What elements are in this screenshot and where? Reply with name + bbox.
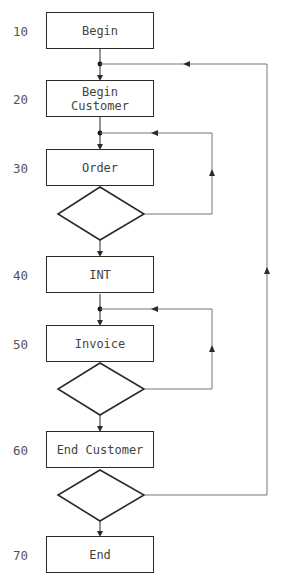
step-box-order: Order xyxy=(46,149,154,186)
step-label: Begin Customer xyxy=(65,85,135,113)
step-number-70: 70 xyxy=(13,548,37,563)
step-number-40: 40 xyxy=(13,268,37,283)
step-box-begin-customer: Begin Customer xyxy=(46,80,154,117)
step-box-invoice: Invoice xyxy=(46,325,154,362)
step-box-int: INT xyxy=(46,256,154,293)
step-number-60: 60 xyxy=(13,443,37,458)
decision-diamond-invoice xyxy=(58,363,144,415)
decision-diamond-order xyxy=(58,187,144,240)
step-number-10: 10 xyxy=(13,24,37,39)
step-box-end-customer: End Customer xyxy=(46,431,154,468)
step-number-50: 50 xyxy=(13,337,37,352)
step-number-30: 30 xyxy=(13,161,37,176)
step-box-begin: Begin xyxy=(46,12,154,49)
decision-diamond-customer xyxy=(58,470,144,521)
step-number-20: 20 xyxy=(13,92,37,107)
step-box-end: End xyxy=(46,536,154,573)
